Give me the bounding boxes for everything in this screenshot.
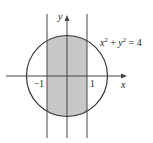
eq-plus: +: [108, 37, 119, 48]
y-axis-label: y: [57, 11, 63, 22]
diagram-canvas: y x −1 1 x2 + y2 = 4: [0, 0, 153, 143]
x-axis-arrow-icon: [121, 74, 127, 79]
tick-label-one: 1: [90, 79, 95, 89]
x-axis-label: x: [120, 79, 126, 90]
y-axis-arrow-icon: [65, 15, 70, 21]
tick-label-neg-one: −1: [34, 79, 44, 89]
eq-rhs: = 4: [126, 37, 142, 48]
equation-label: x2 + y2 = 4: [99, 36, 142, 48]
